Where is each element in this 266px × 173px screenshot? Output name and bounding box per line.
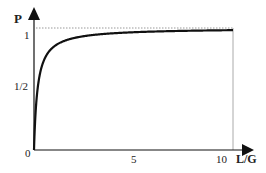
saturation-chart: P 1 1/2 0 5 10 L/G	[0, 0, 266, 173]
y-axis-arrow-icon	[28, 7, 40, 20]
origin-label: 0	[25, 147, 31, 159]
x-axis-label: L/G	[236, 152, 257, 166]
data-curve	[34, 30, 233, 150]
y-tick-label-half: 1/2	[14, 80, 28, 92]
y-tick-label-1: 1	[24, 29, 30, 41]
y-axis-label: P	[14, 11, 22, 26]
x-tick-label-5: 5	[131, 153, 137, 165]
x-tick-label-10: 10	[216, 153, 228, 165]
